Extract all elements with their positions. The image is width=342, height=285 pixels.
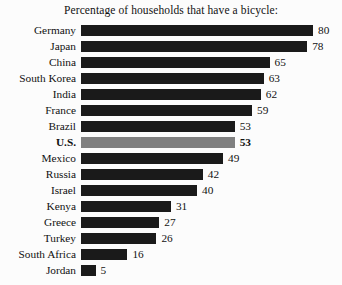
bar-track	[81, 25, 313, 36]
bar-value-label: 5	[101, 262, 107, 278]
bar-row: Greece27	[0, 214, 342, 230]
bar-track	[81, 217, 313, 228]
category-label: U.S.	[2, 134, 76, 150]
bar-row: Japan78	[0, 38, 342, 54]
bar-value-label: 16	[132, 246, 143, 262]
bar-fill	[81, 121, 235, 132]
bar-fill	[81, 153, 223, 164]
bar-fill	[81, 233, 156, 244]
bar-value-label: 65	[275, 54, 286, 70]
bar-track	[81, 201, 313, 212]
bar-track	[81, 249, 313, 260]
bar-fill	[81, 89, 261, 100]
bar-row: Jordan5	[0, 262, 342, 278]
category-label: India	[2, 86, 76, 102]
bicycle-households-bar-chart: Percentage of households that have a bic…	[0, 0, 342, 285]
category-label: South Korea	[2, 70, 76, 86]
category-label: Russia	[2, 166, 76, 182]
bar-row: Israel40	[0, 182, 342, 198]
bar-fill	[81, 105, 252, 116]
bar-fill	[81, 169, 203, 180]
bar-track	[81, 265, 313, 276]
bar-track	[81, 89, 313, 100]
category-label: Mexico	[2, 150, 76, 166]
bar-track	[81, 41, 313, 52]
bar-value-label: 31	[176, 198, 187, 214]
bar-row: U.S.53	[0, 134, 342, 150]
bar-value-label: 40	[202, 182, 213, 198]
chart-plot-area: Germany80Japan78China65South Korea63Indi…	[0, 22, 342, 278]
category-label: Israel	[2, 182, 76, 198]
bar-value-label: 63	[269, 70, 280, 86]
category-label: Greece	[2, 214, 76, 230]
bar-row: China65	[0, 54, 342, 70]
bar-row: Germany80	[0, 22, 342, 38]
bar-track	[81, 233, 313, 244]
category-label: China	[2, 54, 76, 70]
bar-track	[81, 185, 313, 196]
bar-fill	[81, 41, 307, 52]
bar-row: Brazil53	[0, 118, 342, 134]
bar-fill	[81, 249, 127, 260]
bar-fill	[81, 137, 235, 148]
bar-fill	[81, 57, 270, 68]
bar-value-label: 49	[228, 150, 239, 166]
bar-fill	[81, 25, 313, 36]
bar-value-label: 27	[164, 214, 175, 230]
bar-track	[81, 153, 313, 164]
bar-row: Turkey26	[0, 230, 342, 246]
bar-track	[81, 105, 313, 116]
bar-row: Mexico49	[0, 150, 342, 166]
bar-value-label: 80	[318, 22, 329, 38]
bar-value-label: 59	[257, 102, 268, 118]
bar-value-label: 53	[240, 118, 251, 134]
category-label: Turkey	[2, 230, 76, 246]
bar-row: South Africa16	[0, 246, 342, 262]
bar-value-label: 78	[312, 38, 323, 54]
bar-track	[81, 169, 313, 180]
bar-value-label: 26	[161, 230, 172, 246]
bar-track	[81, 137, 313, 148]
bar-row: India62	[0, 86, 342, 102]
bar-value-label: 62	[266, 86, 277, 102]
bar-track	[81, 121, 313, 132]
bar-fill	[81, 201, 171, 212]
bar-row: France59	[0, 102, 342, 118]
bar-row: Kenya31	[0, 198, 342, 214]
bar-fill	[81, 217, 159, 228]
category-label: Germany	[2, 22, 76, 38]
category-label: Kenya	[2, 198, 76, 214]
bar-fill	[81, 73, 264, 84]
bar-row: South Korea63	[0, 70, 342, 86]
chart-title: Percentage of households that have a bic…	[0, 3, 342, 17]
bar-value-label: 53	[240, 134, 251, 150]
category-label: South Africa	[2, 246, 76, 262]
bar-value-label: 42	[208, 166, 219, 182]
category-label: Jordan	[2, 262, 76, 278]
category-label: France	[2, 102, 76, 118]
bar-row: Russia42	[0, 166, 342, 182]
bar-fill	[81, 265, 96, 276]
category-label: Brazil	[2, 118, 76, 134]
bar-fill	[81, 185, 197, 196]
category-label: Japan	[2, 38, 76, 54]
